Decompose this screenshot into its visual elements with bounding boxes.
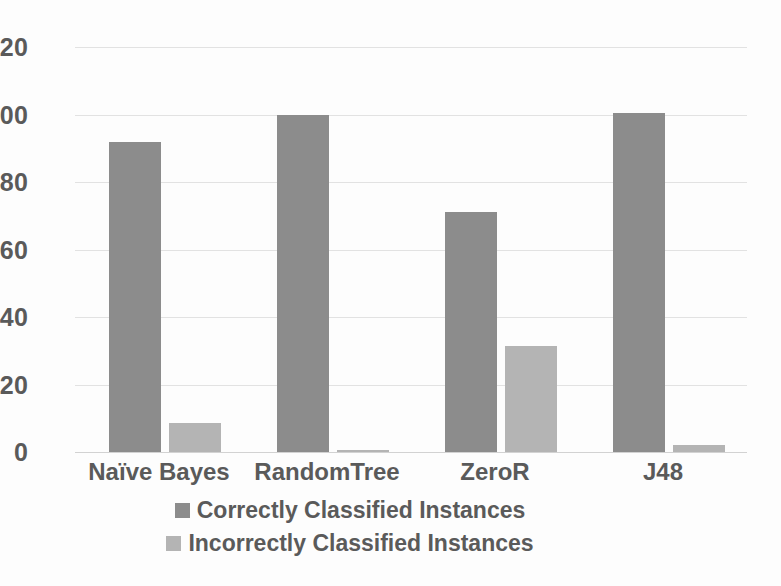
bar-chart: 020406080100120 Naïve BayesRandomTreeZer… [0, 0, 781, 586]
bar-incorrect-3[interactable] [673, 445, 725, 452]
bar-correct-0[interactable] [109, 142, 161, 453]
category-label-2: ZeroR [411, 458, 579, 486]
legend-item-0[interactable]: Correctly Classified Instances [175, 497, 526, 524]
category-label-3: J48 [579, 458, 747, 486]
bar-group-3 [579, 47, 747, 452]
y-tick-label-80: 80 [0, 168, 28, 197]
category-label-0: Naïve Bayes [75, 458, 243, 486]
legend-swatch-icon-1 [166, 536, 181, 551]
bar-correct-2[interactable] [445, 212, 497, 452]
legend-item-1[interactable]: Incorrectly Classified Instances [166, 530, 533, 557]
bar-group-0 [75, 47, 243, 452]
bar-group-1 [243, 47, 411, 452]
legend-label-1: Incorrectly Classified Instances [188, 530, 533, 557]
y-tick-label-60: 60 [0, 235, 28, 264]
bar-group-2 [411, 47, 579, 452]
category-label-1: RandomTree [243, 458, 411, 486]
y-tick-label-20: 20 [0, 370, 28, 399]
x-axis-category-labels: Naïve BayesRandomTreeZeroRJ48 [75, 458, 747, 486]
bar-incorrect-0[interactable] [169, 423, 221, 452]
plot-area: 020406080100120 [75, 47, 747, 452]
y-tick-label-0: 0 [0, 438, 28, 467]
bar-incorrect-1[interactable] [337, 450, 389, 452]
bar-groups [75, 47, 747, 452]
bar-correct-3[interactable] [613, 113, 665, 452]
y-tick-label-40: 40 [0, 303, 28, 332]
chart-legend: Correctly Classified InstancesIncorrectl… [0, 497, 700, 563]
y-tick-label-100: 100 [0, 100, 28, 129]
legend-swatch-icon-0 [175, 503, 190, 518]
y-tick-label-120: 120 [0, 33, 28, 62]
legend-label-0: Correctly Classified Instances [197, 497, 526, 524]
bar-correct-1[interactable] [277, 115, 329, 453]
bar-incorrect-2[interactable] [505, 346, 557, 452]
gridline-0 [75, 452, 747, 453]
